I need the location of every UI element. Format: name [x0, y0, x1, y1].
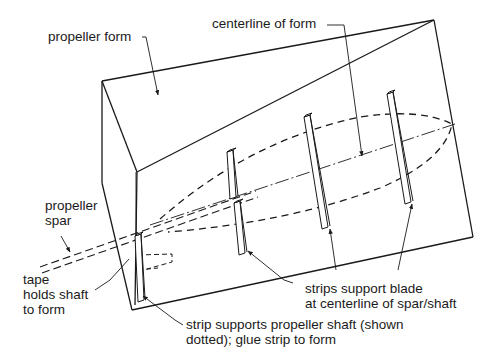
- blade-strip-2: [304, 113, 330, 229]
- label-strip-supports-shaft: strip supports propeller shaft (shown do…: [186, 317, 404, 347]
- blade-strip-1-lower: [234, 199, 247, 255]
- leader-centerline: [327, 25, 362, 156]
- label-strips-support: strips support blade at centerline of sp…: [305, 281, 457, 311]
- label-tape: tape holds shaft to form: [23, 272, 88, 317]
- leader-spar: [61, 236, 70, 252]
- support-strips: [135, 90, 413, 302]
- blade-strip-1-upper: [227, 148, 238, 199]
- shaft-support-strip: [135, 232, 145, 302]
- leader-strips-3: [398, 204, 412, 270]
- centerline: [150, 124, 455, 225]
- leader-lines: [61, 25, 412, 325]
- blade-strip-3: [387, 90, 413, 204]
- label-centerline: centerline of form: [212, 16, 316, 31]
- leader-propeller-form: [142, 37, 158, 95]
- label-propeller-spar: propeller spar: [45, 198, 98, 228]
- leader-strips-2: [330, 229, 336, 270]
- label-propeller-form: propeller form: [48, 29, 131, 44]
- leader-strips-1: [248, 251, 293, 283]
